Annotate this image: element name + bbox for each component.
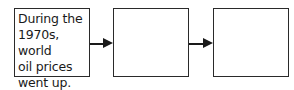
flowchart-box-1: During the 1970s, world oil prices went … — [14, 8, 90, 77]
arrow-right-icon — [189, 43, 213, 45]
arrow-shaft — [189, 43, 204, 45]
arrow-right-icon — [90, 43, 113, 45]
flowchart-box-3 — [213, 8, 289, 77]
arrow-shaft — [90, 43, 104, 45]
flowchart-box-2 — [113, 8, 189, 77]
arrow-head — [103, 38, 113, 48]
box-1-text: During the 1970s, world oil prices went … — [18, 11, 89, 90]
arrow-head — [203, 38, 213, 48]
